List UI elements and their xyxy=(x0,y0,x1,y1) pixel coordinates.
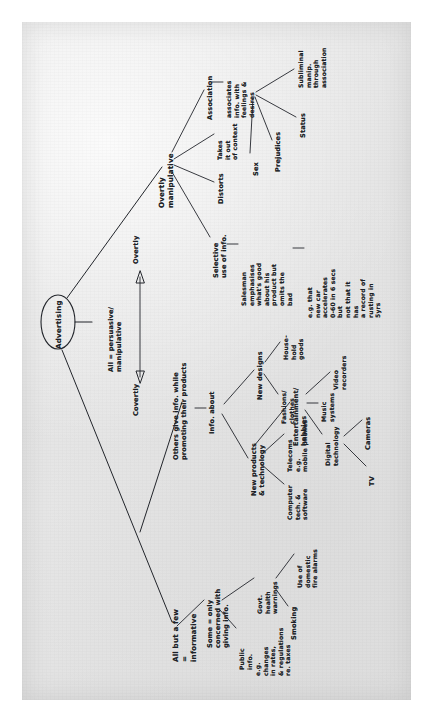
node-advertising[interactable]: Advertising xyxy=(55,300,63,349)
node-sex[interactable]: Sex xyxy=(252,162,260,176)
node-entertainment-hobbies[interactable]: Entertainment/ hobbies xyxy=(292,388,308,446)
node-video-recorders[interactable]: Video recorders xyxy=(332,356,347,390)
node-public-info[interactable]: Public info. xyxy=(238,648,253,670)
node-all-but-a-few-informative[interactable]: All but a few = informative xyxy=(172,609,198,662)
node-covertly-axis: Covertly xyxy=(132,384,140,416)
mind-map: Advertising All = persuasive/ manipulati… xyxy=(22,22,411,700)
connector-info-newproducts xyxy=(222,414,248,458)
connector-overtly-distorts xyxy=(174,165,214,182)
node-use-of-domestic-fire-alarms[interactable]: Use of domestic fire alarms xyxy=(296,549,319,588)
connector-digital-cameras xyxy=(344,420,362,436)
connector-overtly-selective xyxy=(172,172,210,237)
node-overtly-axis: Overtly xyxy=(132,236,140,264)
connector-root-informative xyxy=(62,350,172,622)
connector-entertainment-video xyxy=(306,372,330,394)
connector-newdesigns-fashions xyxy=(264,374,278,394)
node-associates-info[interactable]: associates info. with feelings & desires xyxy=(225,80,255,118)
node-axis-label: All = persuasive/ manipulative xyxy=(107,307,123,372)
node-overtly-manipulative[interactable]: Overtly manipulative xyxy=(158,153,176,208)
screenshot-canvas: Advertising All = persuasive/ manipulati… xyxy=(0,0,433,722)
node-digital-technology[interactable]: Digital technology xyxy=(324,426,339,466)
node-status[interactable]: Status xyxy=(299,113,307,138)
node-new-designs[interactable]: New designs xyxy=(256,351,264,400)
connector-govt-firealarms xyxy=(276,554,294,578)
connector-overtly-takes-context xyxy=(174,134,214,159)
node-govt-health-warnings[interactable]: Govt. health warnings xyxy=(256,581,279,614)
node-household-goods[interactable]: House- hold goods xyxy=(282,335,305,360)
node-smoking[interactable]: Smoking xyxy=(290,607,298,640)
connector-overtly-association xyxy=(172,90,204,152)
node-eg-changes-rates[interactable]: e.g. changes in rates, & regulations re.… xyxy=(254,627,292,676)
node-selective-use-of-info[interactable]: Selective use of info. xyxy=(212,234,228,278)
connector-associates-prejudices xyxy=(255,97,272,140)
node-new-products-technology[interactable]: New products & technology xyxy=(250,443,266,496)
connector-info-newdesigns xyxy=(224,370,254,404)
connector-digital-tv xyxy=(344,444,366,466)
node-cameras[interactable]: Cameras xyxy=(364,417,372,450)
node-distorts[interactable]: Distorts xyxy=(217,173,225,204)
connector-associates-subliminal xyxy=(256,69,294,92)
node-subliminal-manip[interactable]: Subliminal manip. through association xyxy=(297,47,327,88)
node-association[interactable]: Association xyxy=(206,76,214,120)
node-eg-new-car[interactable]: e.g. that new car accelerates 0-60 in 6 … xyxy=(306,269,382,318)
node-takes-it-out-of-context[interactable]: Takes it out of context xyxy=(216,124,239,161)
node-music-systems[interactable]: Music systems xyxy=(320,393,335,422)
node-computer-tech-software[interactable]: Computer tech. & software xyxy=(286,485,309,520)
node-salesman-emphasises[interactable]: Salesman emphasises what's good about hi… xyxy=(240,263,293,306)
node-tv[interactable]: TV xyxy=(368,476,376,486)
connector-root-overtly xyxy=(67,167,162,298)
node-prejudices[interactable]: Prejudices xyxy=(274,132,282,172)
node-some-only-concerned[interactable]: Some = only concerned with giving info. xyxy=(206,589,231,648)
node-others-give-info[interactable]: Others give info. while promoting their … xyxy=(172,362,188,460)
connector-newdesigns-household xyxy=(265,342,280,362)
node-info-about[interactable]: Info. about xyxy=(208,391,216,434)
